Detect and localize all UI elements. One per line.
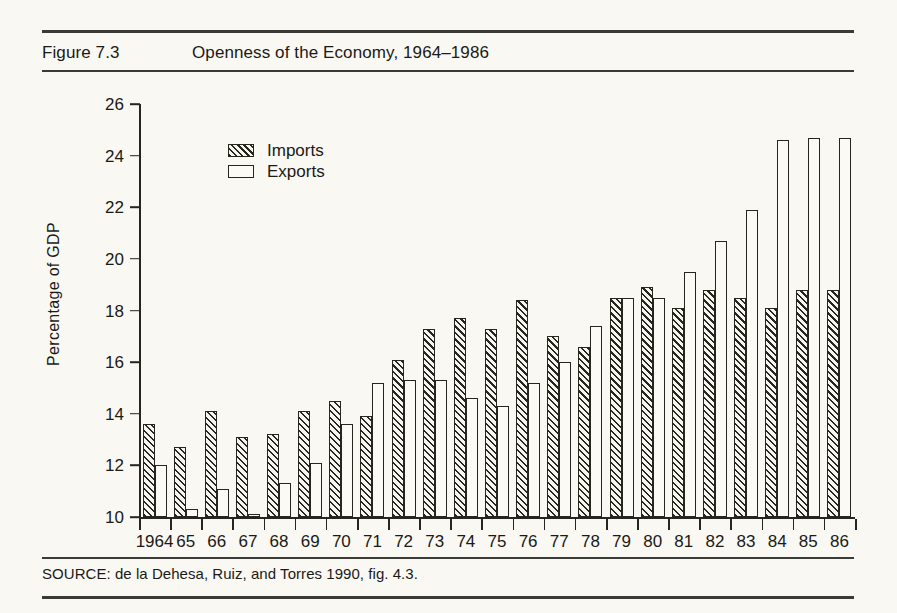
y-axis-tick-mark (130, 465, 140, 467)
y-axis-tick-label: 18 (90, 302, 124, 319)
bar-imports (765, 308, 777, 517)
x-axis-tick-mark (388, 519, 390, 530)
bar-imports (641, 287, 653, 517)
x-axis-tick-mark (824, 519, 826, 530)
x-axis-tick-mark (419, 519, 421, 530)
bar-exports (746, 210, 758, 517)
bar-imports (454, 318, 466, 517)
rule-bottom (42, 596, 854, 599)
y-axis-tick-mark (130, 310, 140, 312)
y-axis-tick-mark (130, 206, 140, 208)
y-axis-tick-label: 26 (90, 96, 124, 113)
bar-exports (341, 424, 353, 517)
x-axis-tick-mark (139, 519, 141, 530)
x-axis-tick-mark (481, 519, 483, 530)
bar-imports (703, 290, 715, 517)
x-axis-tick-mark (201, 519, 203, 530)
bar-imports (143, 424, 155, 517)
bar-imports (236, 437, 248, 517)
x-axis-tick-label: 84 (768, 532, 787, 552)
bar-imports (485, 329, 497, 517)
x-axis-tick-mark (606, 519, 608, 530)
bar-exports (622, 298, 634, 517)
bar-exports (217, 489, 229, 517)
bar-imports (205, 411, 217, 517)
x-axis-tick-mark (637, 519, 639, 530)
y-axis-tick-label: 12 (90, 457, 124, 474)
bar-exports (248, 514, 260, 517)
bar-exports (186, 509, 198, 517)
bar-exports (372, 383, 384, 517)
x-axis-tick-mark (855, 519, 857, 530)
y-axis-tick-label: 24 (90, 147, 124, 164)
rule-above-source (42, 557, 854, 559)
y-axis-tick-label: 22 (90, 199, 124, 216)
y-axis-tick-mark (130, 103, 140, 105)
y-axis-tick-label: 10 (90, 509, 124, 526)
bar-exports (279, 483, 291, 517)
x-axis-tick-label: 78 (581, 532, 600, 552)
x-axis-tick-mark (544, 519, 546, 530)
x-axis-tick-mark (232, 519, 234, 530)
bar-exports (808, 138, 820, 517)
y-axis-tick-mark (130, 413, 140, 415)
x-axis-tick-label: 70 (332, 532, 351, 552)
y-axis-tick-mark (130, 258, 140, 260)
x-axis-tick-mark (699, 519, 701, 530)
x-axis-tick-label: 74 (456, 532, 475, 552)
legend-label-exports: Exports (267, 163, 325, 180)
x-axis-tick-mark (575, 519, 577, 530)
y-axis-tick-label: 20 (90, 250, 124, 267)
bar-imports (267, 434, 279, 517)
bar-imports (796, 290, 808, 517)
bar-imports (827, 290, 839, 517)
legend-swatch-imports-icon (228, 144, 254, 157)
x-axis-tick-mark (793, 519, 795, 530)
x-axis-tick-label: 82 (705, 532, 724, 552)
x-axis-tick-label: 85 (799, 532, 818, 552)
x-axis-tick-label: 80 (643, 532, 662, 552)
x-axis-tick-label: 73 (425, 532, 444, 552)
y-axis-tick-label: 16 (90, 354, 124, 371)
figure-page: Figure 7.3 Openness of the Economy, 1964… (0, 0, 897, 613)
x-axis-tick-mark (295, 519, 297, 530)
y-axis-tick-mark (130, 361, 140, 363)
bar-exports (559, 362, 571, 517)
bar-exports (684, 272, 696, 517)
x-axis-tick-label: 79 (612, 532, 631, 552)
bar-exports (155, 465, 167, 517)
x-axis-tick-label: 75 (488, 532, 507, 552)
bar-exports (777, 140, 789, 517)
x-axis-tick-mark (170, 519, 172, 530)
legend-label-imports: Imports (267, 142, 324, 159)
x-axis-tick-mark (450, 519, 452, 530)
bar-imports (672, 308, 684, 517)
x-axis-tick-mark (264, 519, 266, 530)
figure-source: SOURCE: de la Dehesa, Ruiz, and Torres 1… (42, 565, 418, 582)
bar-chart: Percentage of GDP 1012141618202224261964… (0, 0, 897, 613)
x-axis-tick-label: 69 (301, 532, 320, 552)
y-axis-tick-label: 14 (90, 405, 124, 422)
y-axis-label: Percentage of GDP (45, 194, 63, 394)
chart-legend: Imports Exports (228, 140, 325, 182)
legend-swatch-exports-icon (228, 165, 254, 178)
x-axis-tick-label: 68 (270, 532, 289, 552)
bar-imports (610, 298, 622, 517)
x-axis-tick-label: 83 (737, 532, 756, 552)
x-axis-tick-label: 67 (238, 532, 257, 552)
y-axis-tick-mark (130, 516, 140, 518)
x-axis-tick-label: 1964 (136, 532, 174, 552)
x-axis-tick-label: 76 (519, 532, 538, 552)
x-axis-line (139, 517, 855, 519)
legend-item-imports: Imports (228, 140, 325, 161)
bar-imports (547, 336, 559, 517)
bar-imports (578, 347, 590, 517)
rule-under-title (42, 70, 854, 72)
x-axis-tick-mark (730, 519, 732, 530)
x-axis-tick-label: 71 (363, 532, 382, 552)
bar-imports (360, 416, 372, 517)
bar-exports (839, 138, 851, 517)
x-axis-tick-mark (326, 519, 328, 530)
bar-imports (329, 401, 341, 517)
x-axis-tick-mark (668, 519, 670, 530)
